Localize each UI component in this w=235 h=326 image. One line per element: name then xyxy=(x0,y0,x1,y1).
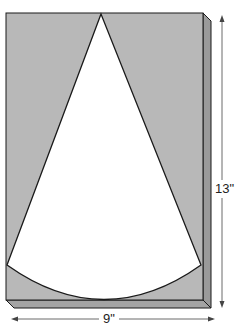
board-side-edge xyxy=(203,13,211,308)
height-label: 13" xyxy=(215,180,234,198)
width-arrow-left-icon xyxy=(11,317,18,322)
height-arrow-top-icon xyxy=(220,15,225,22)
board-bottom-edge xyxy=(6,300,211,308)
width-label: 9" xyxy=(99,312,119,326)
diagram-canvas xyxy=(0,0,235,326)
height-arrow-bottom-icon xyxy=(220,301,225,308)
width-arrow-right-icon xyxy=(208,317,215,322)
